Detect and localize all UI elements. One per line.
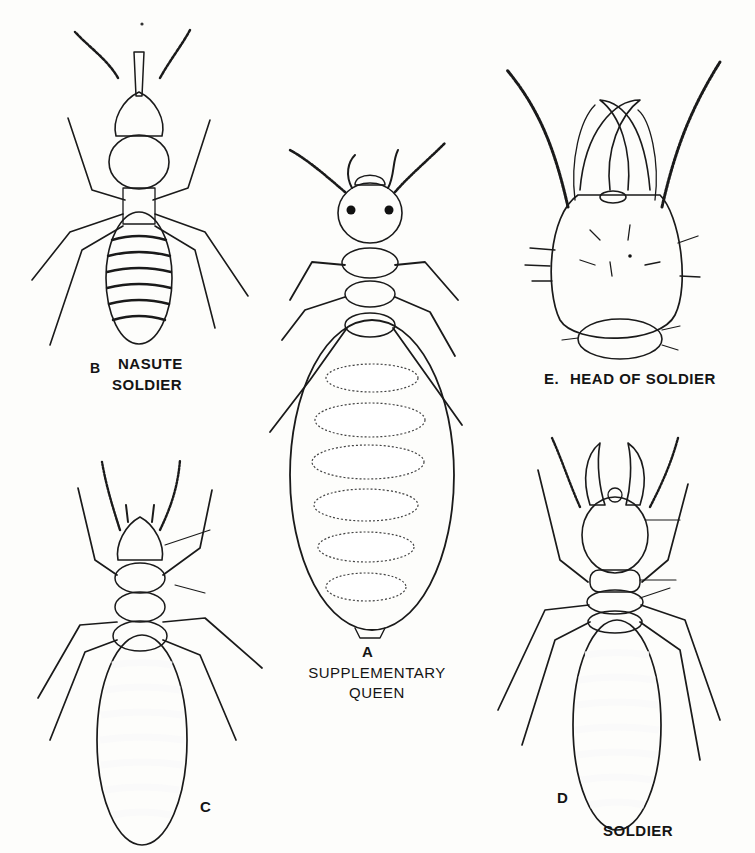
figure-d-caption: SOLDIER: [603, 822, 673, 839]
illustration-plate: B NASUTE SOLDIER E. HEAD OF SOLDIER A SU…: [0, 0, 755, 853]
figure-a-letter: A: [362, 643, 373, 660]
figure-c-letter: C: [200, 798, 211, 815]
figure-e-head-of-soldier: [507, 62, 720, 359]
figure-a-supplementary-queen: [270, 143, 462, 638]
figure-b-letter: B: [90, 360, 101, 377]
figure-b-caption-line2: SOLDIER: [112, 376, 182, 393]
figure-d-letter: D: [557, 789, 568, 806]
termite-drawings: [0, 0, 755, 853]
figure-a-caption-line2: QUEEN: [297, 684, 457, 701]
figure-e-caption: HEAD OF SOLDIER: [570, 370, 716, 387]
figure-e-letter: E.: [544, 370, 559, 387]
figure-a-caption-line1: SUPPLEMENTARY: [297, 664, 457, 681]
figure-c-termite: [38, 460, 262, 845]
figure-d-soldier: [498, 438, 720, 830]
figure-b-nasute-soldier: [32, 22, 248, 345]
figure-b-caption-line1: NASUTE: [118, 355, 183, 372]
